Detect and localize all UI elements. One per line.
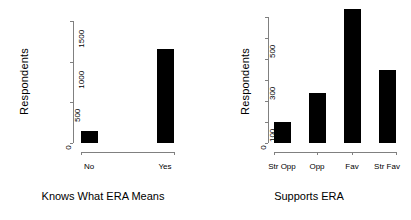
y-tick-right-600: [265, 17, 268, 18]
bar-right-str-opp: [274, 122, 291, 143]
y-tick-right-0: [265, 143, 268, 144]
y-tick-right-200: [265, 101, 268, 102]
y-tick-left-1000: [70, 62, 73, 63]
x-tick-label-right-fav: Fav: [332, 162, 372, 171]
y-tick-left-500: [70, 102, 73, 103]
y-tick-right-500: [265, 38, 268, 39]
y-tick-label-right-300: 300: [268, 87, 277, 100]
y-tick-right-400: [265, 59, 268, 60]
bar-left-yes: [157, 49, 174, 143]
x-axis-line-left: [81, 152, 174, 153]
y-tick-left-0: [70, 143, 73, 144]
x-axis-cap-right-end: [396, 152, 397, 155]
y-axis-title-right: Respondents: [239, 48, 251, 115]
y-tick-label-right-500: 500: [268, 45, 277, 58]
x-axis-tick-right-opp: [317, 152, 318, 155]
x-axis-title-right: Supports ERA: [209, 190, 409, 202]
y-tick-label-left-1500: 1500: [77, 30, 86, 48]
y-tick-left-1500: [70, 21, 73, 22]
y-tick-label-left-0: 0: [64, 145, 73, 149]
x-axis-title-left: Knows What ERA Means: [3, 190, 203, 202]
figure-canvas: Respondents 0 500 1000 1500 No Y: [0, 0, 411, 220]
bar-right-opp: [309, 93, 326, 143]
x-axis-cap-right-start: [274, 152, 275, 155]
bar-left-no: [81, 131, 98, 143]
x-tick-label-left-no: No: [69, 162, 109, 171]
y-tick-right-100: [265, 122, 268, 123]
y-axis-line-right: [268, 17, 269, 143]
x-axis-line-right: [274, 152, 396, 153]
x-axis-cap-left-start: [81, 152, 82, 155]
bar-right-str-fav: [379, 70, 396, 143]
bar-right-fav: [344, 9, 361, 143]
y-axis-title-left: Respondents: [18, 48, 30, 115]
x-axis-tick-right-fav: [352, 152, 353, 155]
chart-panel-right: Respondents 0 100 300 500: [206, 0, 411, 220]
y-tick-label-left-500: 500: [73, 109, 82, 122]
x-tick-label-right-str-opp: Str Opp: [262, 162, 302, 171]
x-axis-cap-left-end: [174, 152, 175, 155]
y-tick-right-300: [265, 80, 268, 81]
x-tick-label-right-str-fav: Str Fav: [367, 162, 407, 171]
y-tick-label-left-1000: 1000: [77, 71, 86, 89]
y-tick-label-right-0: 0: [259, 145, 268, 149]
chart-panel-left: Respondents 0 500 1000 1500 No Y: [0, 0, 206, 220]
x-tick-label-left-yes: Yes: [145, 162, 185, 171]
x-tick-label-right-opp: Opp: [297, 162, 337, 171]
y-axis-line-left: [73, 21, 74, 143]
